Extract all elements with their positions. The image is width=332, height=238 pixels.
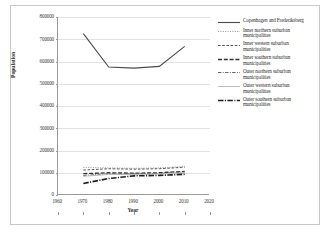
y-tick-label: 600000 — [2, 59, 54, 64]
y-tick-label: 100000 — [2, 170, 54, 175]
series-line — [83, 34, 184, 68]
x-tick-mark — [58, 212, 59, 215]
chart-legend: Copenhagen and FrederiksbergInner northe… — [218, 18, 318, 110]
legend-label: Copenhagen and Frederiksberg — [243, 18, 313, 24]
x-tick-mark — [185, 212, 186, 215]
legend-label: Outer southern suburban municipalities — [243, 97, 313, 109]
legend-swatch-icon — [218, 83, 240, 90]
y-tick-label: 400000 — [2, 103, 54, 108]
legend-item[interactable]: Outer southern suburban municipalities — [218, 97, 318, 109]
y-axis-title: Population — [11, 52, 17, 78]
legend-swatch-icon — [218, 69, 240, 76]
legend-swatch-icon — [218, 28, 240, 35]
legend-item[interactable]: Inner southern suburban municipalities — [218, 55, 318, 67]
legend-item[interactable]: Outer western suburban municipalities — [218, 83, 318, 95]
legend-item[interactable]: Outer northern suburban municipalities — [218, 69, 318, 81]
y-tick-label: 300000 — [2, 126, 54, 131]
legend-item[interactable]: Inner western suburban municipalities — [218, 41, 318, 53]
legend-label: Inner southern suburban municipalities — [243, 55, 313, 67]
x-tick-mark — [83, 212, 84, 215]
legend-label: Inner western suburban municipalities — [243, 41, 313, 53]
x-tick-mark — [159, 212, 160, 215]
legend-swatch-icon — [218, 42, 240, 49]
legend-label: Outer western suburban municipalities — [243, 83, 313, 95]
legend-label: Inner northern suburban municipalities — [243, 28, 313, 40]
y-tick-label: 500000 — [2, 81, 54, 86]
legend-swatch-icon — [218, 97, 240, 104]
data-lines — [58, 17, 210, 195]
legend-swatch-icon — [218, 56, 240, 63]
x-tick-mark — [210, 212, 211, 215]
legend-item[interactable]: Copenhagen and Frederiksberg — [218, 18, 318, 26]
plot-area — [57, 17, 209, 195]
legend-swatch-icon — [218, 19, 240, 26]
x-tick-mark — [109, 212, 110, 215]
x-tick-label: 2020 — [194, 199, 224, 204]
x-axis-title: Year — [57, 208, 209, 214]
legend-item[interactable]: Inner northern suburban municipalities — [218, 28, 318, 40]
legend-label: Outer northern suburban municipalities — [243, 69, 313, 81]
y-tick-label: 0 — [2, 192, 54, 197]
chart-figure: Population Year 010000020000030000040000… — [0, 0, 332, 238]
x-tick-mark — [134, 212, 135, 215]
series-svg — [58, 17, 210, 195]
y-tick-label: 800000 — [2, 14, 54, 19]
y-tick-mark — [56, 195, 58, 196]
y-tick-label: 700000 — [2, 37, 54, 42]
y-tick-label: 200000 — [2, 148, 54, 153]
